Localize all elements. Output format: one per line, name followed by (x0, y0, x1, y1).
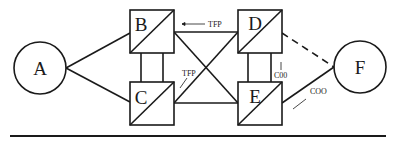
node-b-label: B (135, 14, 148, 35)
tfp-diag-arrow (180, 78, 187, 88)
edge-a-b (66, 33, 130, 68)
tfp-top-label: TFP (208, 20, 222, 29)
node-e-label: E (249, 86, 261, 107)
edge-a-c (66, 68, 130, 102)
edge-d-f (282, 33, 334, 67)
tfp-diag-label: TFP (182, 69, 196, 78)
edge-e-f (282, 67, 334, 103)
coo-label: COO (310, 87, 327, 96)
node-f-label: F (355, 57, 366, 78)
node-d-label: D (248, 13, 262, 34)
node-c-label: C (135, 87, 148, 108)
c00-label: C00 (274, 71, 287, 80)
node-a-label: A (33, 58, 47, 79)
network-diagram: A B C D E F TFP TFP C00 COO (0, 0, 402, 147)
tfp-top-arrowhead (182, 23, 185, 26)
coo-arrow (293, 99, 306, 109)
